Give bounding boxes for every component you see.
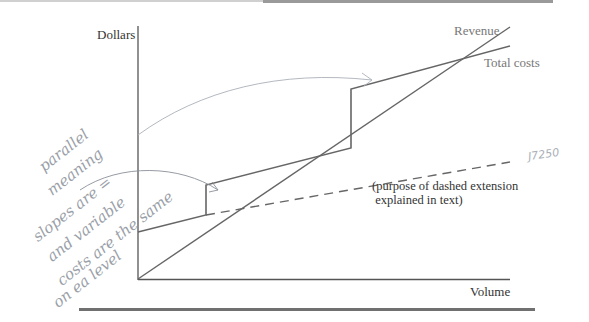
dashed-extension-note-line1: (purpose of dashed extension [372,180,518,193]
total-costs-label: Total costs [484,56,540,69]
pencil-arrow-top [138,77,372,135]
y-axis-label: Dollars [97,28,135,41]
x-axis-label: Volume [470,285,510,298]
revenue-line [138,27,510,279]
dashed-extension-note-line2: explained in text) [372,194,463,207]
bottom-rule [79,308,535,311]
revenue-label: Revenue [454,24,499,37]
